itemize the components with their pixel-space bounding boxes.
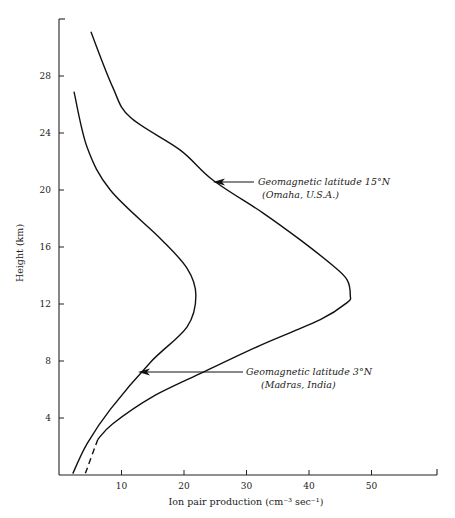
annotation-omaha: Geomagnetic latitude 15°N (Omaha, U.S.A.… <box>213 176 391 200</box>
x-tick-label: 10 <box>116 481 128 491</box>
madras-label-line2: (Madras, India) <box>261 379 336 390</box>
y-tick-label: 20 <box>40 185 52 195</box>
omaha-label-line1: Geomagnetic latitude 15°N <box>258 176 391 187</box>
curve-madras-3n <box>73 92 196 474</box>
x-tick-label: 30 <box>241 481 253 491</box>
y-tick-label: 12 <box>40 299 51 309</box>
x-tick-label: 40 <box>303 481 315 491</box>
y-tick-label: 28 <box>40 71 52 81</box>
y-axis-label: Height (km) <box>14 224 25 282</box>
x-tick-label: 50 <box>366 481 378 491</box>
axes <box>59 19 437 475</box>
y-tick-label: 4 <box>45 413 51 423</box>
curves <box>73 32 351 474</box>
y-tick-label: 16 <box>40 242 52 252</box>
omaha-label-line2: (Omaha, U.S.A.) <box>262 189 339 200</box>
y-ticks: 481216202428 <box>40 71 64 423</box>
ion-production-chart: 481216202428 1020304050 Ion pair product… <box>0 0 455 518</box>
x-tick-label: 20 <box>178 481 190 491</box>
y-tick-label: 8 <box>45 356 51 366</box>
madras-label-line1: Geomagnetic latitude 3°N <box>246 366 373 377</box>
x-ticks: 1020304050 <box>116 470 378 491</box>
x-axis-label: Ion pair production (cm⁻³ sec⁻¹) <box>169 496 324 507</box>
y-tick-label: 24 <box>40 128 52 138</box>
